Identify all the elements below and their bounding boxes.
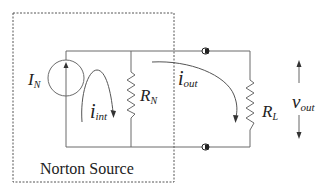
source-label: IN <box>27 70 42 90</box>
norton-source-title: Norton Source <box>40 160 134 177</box>
voltage-down-arrow-icon <box>297 115 302 139</box>
voltage-up-arrow-icon <box>297 60 302 83</box>
output-voltage-label: vout <box>292 91 315 113</box>
output-current-label: iout <box>178 67 199 89</box>
current-source-icon <box>48 60 84 96</box>
output-current-arrow-icon <box>152 62 239 123</box>
output-terminal-bottom <box>202 144 209 150</box>
internal-current-label: iint <box>90 100 108 122</box>
output-terminal-top <box>202 48 209 54</box>
internal-resistor-label: RN <box>139 86 158 106</box>
norton-circuit-diagram: IN RN RL iint iout vout Norton Source <box>0 0 331 193</box>
resistor-rn-icon <box>127 72 135 118</box>
resistor-rl-icon <box>246 80 254 130</box>
load-resistor-label: RL <box>261 102 278 122</box>
wires <box>66 51 250 147</box>
